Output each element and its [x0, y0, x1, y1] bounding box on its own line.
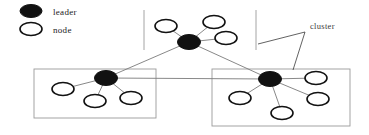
cluster-annotation-label: cluster — [310, 21, 335, 31]
node-top-2[interactable] — [203, 16, 225, 29]
node-right-1[interactable] — [305, 72, 327, 85]
node-right-3[interactable] — [307, 93, 329, 106]
node-left-1[interactable] — [52, 83, 74, 96]
inter-cluster-edge-0 — [106, 42, 189, 78]
cluster-top — [155, 16, 237, 50]
legend-swatch-leader-icon — [20, 5, 42, 18]
diagram-canvas: clusterleadernode — [0, 0, 369, 135]
node-top-1[interactable] — [155, 20, 177, 33]
legend-swatch-node-icon — [20, 23, 42, 36]
node-left-2[interactable] — [84, 95, 106, 108]
leader-right[interactable] — [259, 72, 282, 87]
legend-item-node: node — [20, 23, 72, 36]
node-left-3[interactable] — [120, 92, 142, 105]
legend-label-node: node — [53, 25, 72, 35]
legend: leadernode — [20, 5, 77, 36]
legend-label-leader: leader — [53, 7, 77, 17]
node-right-4[interactable] — [271, 107, 293, 120]
cluster-pointer-line-2 — [293, 32, 305, 70]
leader-top[interactable] — [178, 35, 201, 50]
cluster-pointer-line — [258, 32, 305, 44]
leader-left[interactable] — [95, 71, 118, 86]
cluster-left — [52, 71, 142, 108]
inter-cluster-edge-2 — [106, 78, 270, 79]
legend-item-leader: leader — [20, 5, 77, 18]
node-right-2[interactable] — [229, 92, 251, 105]
node-top-3[interactable] — [215, 32, 237, 45]
annotation-0: cluster — [258, 21, 335, 70]
inter-cluster-edge-1 — [189, 42, 270, 79]
network-cluster-diagram: clusterleadernode — [0, 0, 369, 135]
